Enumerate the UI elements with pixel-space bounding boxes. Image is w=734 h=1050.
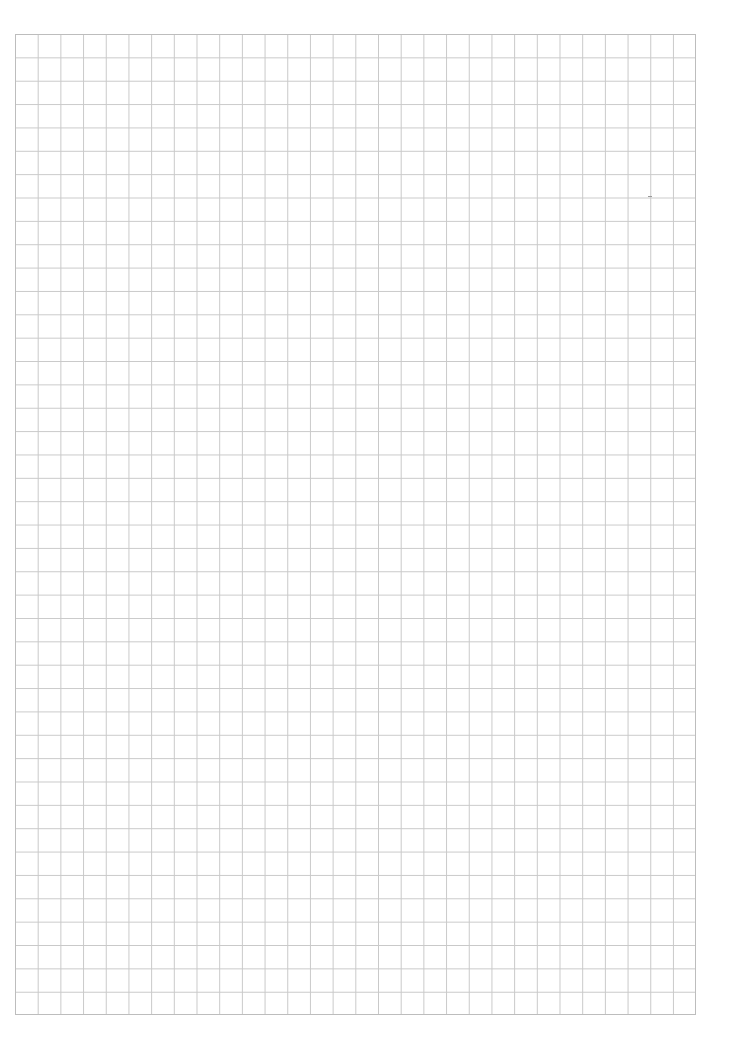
scan-speck bbox=[648, 196, 652, 197]
graph-paper-sheet bbox=[0, 0, 734, 1050]
grid-area bbox=[15, 34, 696, 1015]
